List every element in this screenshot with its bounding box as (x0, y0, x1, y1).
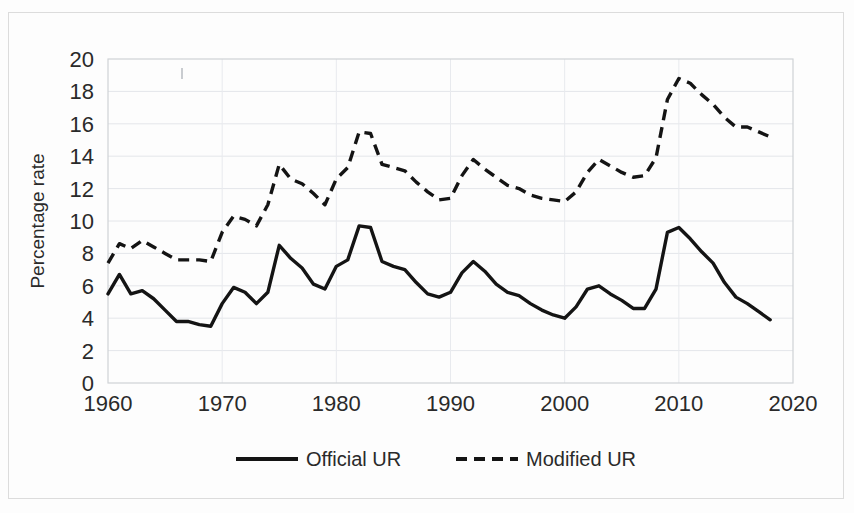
y-axis-title: Percentage rate (27, 153, 48, 288)
chart-legend: Official URModified UR (236, 448, 636, 470)
series-line-modified-ur (108, 78, 770, 263)
y-tick-label-10: 10 (70, 209, 94, 234)
x-tick-label-1980: 1980 (312, 391, 361, 416)
legend-label-official-ur: Official UR (306, 448, 401, 470)
chart-figure: 02468101214161820 1960197019801990200020… (0, 0, 854, 513)
x-tick-label-1990: 1990 (426, 391, 475, 416)
x-tick-label-2000: 2000 (540, 391, 589, 416)
y-axis-title-text: Percentage rate (27, 153, 48, 288)
series-line-official-ur (108, 226, 770, 326)
x-axis-tick-labels: 1960197019801990200020102020 (84, 391, 818, 416)
line-chart: 02468101214161820 1960197019801990200020… (0, 0, 854, 513)
scan-speck (181, 68, 183, 79)
y-tick-label-12: 12 (70, 177, 94, 202)
y-axis-tick-labels: 02468101214161820 (70, 47, 94, 396)
y-tick-label-18: 18 (70, 79, 94, 104)
plot-container: 02468101214161820 1960197019801990200020… (0, 0, 854, 513)
y-tick-label-4: 4 (82, 306, 94, 331)
series-layer (108, 78, 770, 326)
x-tick-label-1970: 1970 (198, 391, 247, 416)
y-tick-label-16: 16 (70, 112, 94, 137)
y-tick-label-6: 6 (82, 274, 94, 299)
x-tick-label-2020: 2020 (769, 391, 818, 416)
x-tick-label-1960: 1960 (84, 391, 133, 416)
y-tick-label-20: 20 (70, 47, 94, 72)
y-tick-label-14: 14 (70, 144, 94, 169)
legend-label-modified-ur: Modified UR (526, 448, 636, 470)
y-tick-label-2: 2 (82, 339, 94, 364)
y-tick-label-8: 8 (82, 241, 94, 266)
x-tick-label-2010: 2010 (654, 391, 703, 416)
